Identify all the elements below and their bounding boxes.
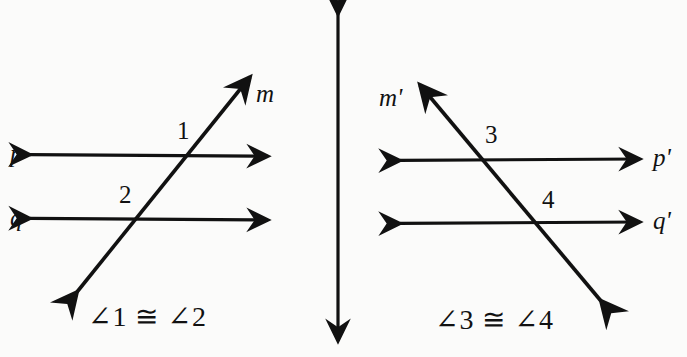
label-line-p: p	[10, 141, 23, 166]
angle-label-2: 2	[119, 182, 132, 207]
label-transversal-m-prime: m'	[379, 85, 402, 110]
transversal-m-prime	[420, 85, 601, 301]
line-p-prime	[400, 159, 640, 160]
transversal-m	[77, 77, 250, 292]
geometry-figure: p q m 1 2 ∠1 ≅ ∠2 m' p' q' 3 4 ∠3 ≅ ∠4	[0, 0, 687, 357]
label-line-q-prime: q'	[653, 208, 671, 233]
caption-angles-1-2: ∠1 ≅ ∠2	[88, 303, 207, 331]
line-q-prime	[400, 222, 640, 223]
left-diagram-lines	[30, 77, 268, 292]
label-line-p-prime: p'	[653, 145, 671, 170]
right-diagram-lines	[400, 85, 640, 301]
line-q	[30, 218, 268, 220]
angle-label-3: 3	[485, 122, 498, 147]
line-p	[30, 155, 268, 157]
label-transversal-m: m	[256, 81, 274, 106]
angle-label-4: 4	[542, 187, 555, 212]
caption-angles-3-4: ∠3 ≅ ∠4	[435, 306, 554, 334]
label-line-q: q	[10, 205, 23, 230]
angle-label-1: 1	[177, 118, 190, 143]
